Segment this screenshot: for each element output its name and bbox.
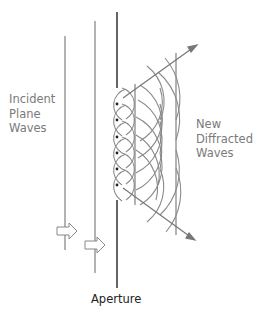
new-diffracted-waves-label: New Diffracted Waves — [196, 117, 253, 161]
incident-label-line-2: Plane — [9, 107, 55, 122]
spread-arrow-up — [123, 45, 197, 98]
diffracted-label-line-2: Diffracted — [196, 132, 253, 147]
incident-plane-waves-label: Incident Plane Waves — [9, 92, 55, 136]
propagation-arrow-1 — [57, 223, 77, 239]
incident-label-line-3: Waves — [9, 121, 55, 136]
diffracted-label-line-1: New — [196, 117, 253, 132]
spread-arrow-down — [123, 188, 195, 240]
aperture-label: Aperture — [91, 292, 141, 306]
incident-label-line-1: Incident — [9, 92, 55, 107]
diffracted-label-line-3: Waves — [196, 146, 253, 161]
